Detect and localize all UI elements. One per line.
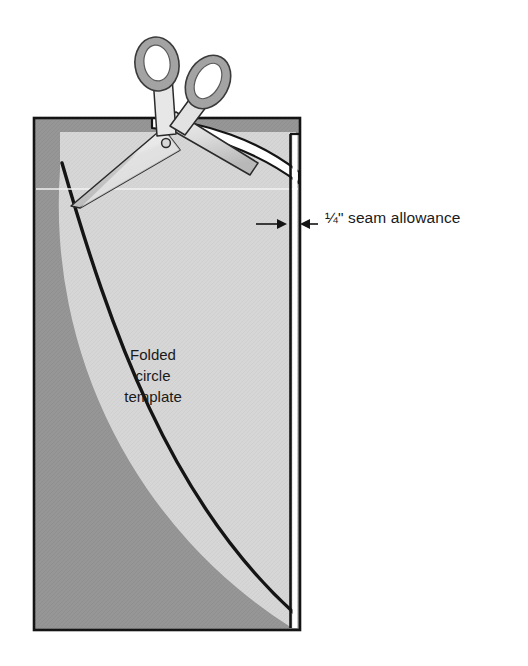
seam-allowance-label: ¼" seam allowance	[325, 209, 461, 227]
seam-arrow-left-pointing	[300, 219, 310, 229]
scissors-pivot	[162, 139, 171, 148]
template-label-line-2: circle	[98, 365, 208, 386]
folded-circle-template-label: Folded circle template	[98, 344, 208, 407]
scissors-handle-left	[131, 34, 182, 94]
template-label-line-1: Folded	[98, 344, 208, 365]
folded-circle-cutting-diagram	[0, 0, 528, 666]
template-label-line-3: template	[98, 386, 208, 407]
